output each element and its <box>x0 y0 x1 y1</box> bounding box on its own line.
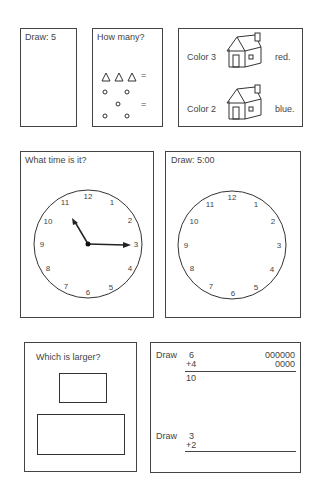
svg-text:3: 3 <box>277 241 282 250</box>
svg-text:4: 4 <box>128 264 133 273</box>
svg-text:7: 7 <box>209 282 214 291</box>
draw-five-prompt: Draw: 5 <box>25 32 56 42</box>
svg-text:5: 5 <box>254 283 259 292</box>
color-row1-suffix: red. <box>275 52 291 62</box>
svg-text:2: 2 <box>128 216 133 225</box>
problem2-sum-line <box>185 451 296 452</box>
svg-text:9: 9 <box>184 241 189 250</box>
svg-text:3: 3 <box>134 240 139 249</box>
draw-time-box: Draw: 5:00 12 1 2 3 4 5 6 7 8 9 10 11 <box>165 151 301 318</box>
svg-text:7: 7 <box>64 282 69 291</box>
color-houses-box: Color 3 red. Color 2 blue. <box>178 28 303 127</box>
svg-text:10: 10 <box>44 217 53 226</box>
svg-text:1: 1 <box>254 200 259 209</box>
hour-hand <box>75 222 88 244</box>
color-row1-prefix: Color 3 <box>187 52 216 62</box>
what-time-box: What time is it? 12 1 2 3 4 5 6 7 8 9 10… <box>20 151 154 318</box>
draw-sums-box: Draw 6 +4 000000 0000 10 Draw 3 +2 <box>150 342 301 473</box>
which-larger-prompt: Which is larger? <box>36 352 101 362</box>
svg-text:9: 9 <box>40 240 45 249</box>
svg-text:12: 12 <box>228 193 237 202</box>
circles-equals: = <box>141 99 146 109</box>
how-many-prompt: How many? <box>97 32 145 42</box>
problem2-add: +2 <box>186 440 196 450</box>
svg-text:12: 12 <box>84 192 93 201</box>
problem1-dots-bottom: 0000 <box>275 359 295 369</box>
small-rectangle <box>59 373 107 403</box>
color-row2-suffix: blue. <box>275 104 295 114</box>
svg-text:11: 11 <box>61 198 70 207</box>
triangles-equals: = <box>141 70 146 80</box>
minute-hand <box>88 244 125 245</box>
svg-text:6: 6 <box>86 288 91 297</box>
triangles-icon <box>101 71 141 83</box>
svg-text:8: 8 <box>190 264 195 273</box>
svg-text:4: 4 <box>270 265 275 274</box>
svg-text:1: 1 <box>110 198 115 207</box>
svg-text:11: 11 <box>206 200 215 209</box>
svg-text:8: 8 <box>46 264 51 273</box>
problem1-result: 10 <box>186 373 196 383</box>
svg-text:2: 2 <box>271 217 276 226</box>
circles-icon <box>101 89 141 123</box>
house-icon <box>225 85 265 123</box>
svg-text:10: 10 <box>190 217 199 226</box>
house-icon <box>225 33 265 71</box>
large-rectangle <box>37 414 125 455</box>
draw-five-box: Draw: 5 <box>20 28 77 127</box>
which-larger-box: Which is larger? <box>24 342 137 472</box>
color-row2-prefix: Color 2 <box>187 104 216 114</box>
problem1-sum-line <box>185 371 296 372</box>
svg-text:5: 5 <box>109 283 114 292</box>
problem1-add: +4 <box>186 359 196 369</box>
problem2-label: Draw <box>156 431 177 441</box>
how-many-box: How many? = = <box>92 28 163 127</box>
problem1-label: Draw <box>156 350 177 360</box>
clock-face: 12 1 2 3 4 5 6 7 8 9 10 11 <box>21 152 155 319</box>
clock-face: 12 1 2 3 4 5 6 7 8 9 10 11 <box>166 152 302 319</box>
svg-text:6: 6 <box>231 289 236 298</box>
